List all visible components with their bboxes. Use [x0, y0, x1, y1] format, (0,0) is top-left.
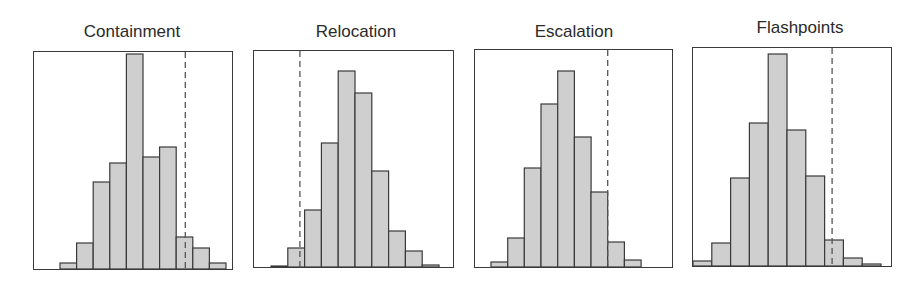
histogram-bar: [712, 243, 731, 266]
histogram-bar: [806, 176, 825, 266]
histogram-bar: [731, 178, 750, 266]
histogram-bars: [0, 0, 913, 284]
histogram-bar: [825, 240, 844, 266]
panel-flashpoints: Flashpoints: [0, 0, 913, 284]
histogram-bar: [693, 261, 712, 266]
histogram-bar: [787, 130, 806, 266]
histogram-bar: [862, 264, 881, 266]
histogram-bar: [749, 123, 768, 266]
histogram-bar: [768, 54, 787, 266]
histogram-bar: [843, 258, 862, 266]
